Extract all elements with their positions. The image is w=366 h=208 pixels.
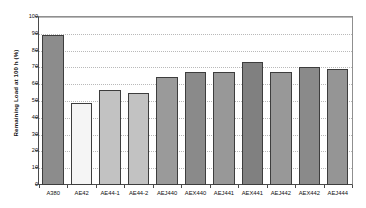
y-axis-tick-label: 100 <box>8 13 38 19</box>
x-axis-tick-mark <box>124 185 125 188</box>
bar <box>299 67 320 185</box>
y-axis-tick-label: 70 <box>8 63 38 69</box>
x-axis-tick-mark <box>210 185 211 188</box>
x-axis-tick-mark <box>96 185 97 188</box>
bar <box>213 72 234 185</box>
x-axis-tick-label: AEJ442 <box>267 189 295 197</box>
bar <box>185 72 206 185</box>
x-axis-tick-label: AEJ444 <box>324 189 352 197</box>
y-axis-tick-label: 90 <box>8 30 38 36</box>
x-axis-tick-mark <box>153 185 154 188</box>
bar <box>42 35 63 185</box>
x-axis-tick-mark <box>39 185 40 188</box>
x-axis-tick-label: AE44-1 <box>96 189 124 197</box>
y-axis-tick-label: 30 <box>8 131 38 137</box>
x-axis-tick-label: AEJ440 <box>153 189 181 197</box>
x-axis-tick-label: AE42 <box>67 189 95 197</box>
bar <box>71 103 92 185</box>
y-axis-tick-label: 20 <box>8 147 38 153</box>
y-axis-tick-label: 40 <box>8 114 38 120</box>
x-axis-tick-label: AEX442 <box>295 189 323 197</box>
x-axis-tick-label: A380 <box>39 189 67 197</box>
y-axis-tick-label: 50 <box>8 97 38 103</box>
y-axis-tick-label: 60 <box>8 80 38 86</box>
bar <box>99 90 120 185</box>
x-axis-tick-mark <box>267 185 268 188</box>
x-axis-tick-mark <box>181 185 182 188</box>
x-axis-tick-label: AEX440 <box>181 189 209 197</box>
y-axis-tick-labels: 0102030405060708090100 <box>0 16 38 185</box>
bar <box>242 62 263 185</box>
y-axis-tick-label: 80 <box>8 47 38 53</box>
x-axis-tick-mark <box>352 185 353 188</box>
x-axis-tick-mark <box>295 185 296 188</box>
bar <box>156 77 177 185</box>
x-axis-tick-mark <box>67 185 68 188</box>
y-axis-tick-label: 0 <box>8 181 38 187</box>
x-axis-tick-label: AEJ441 <box>210 189 238 197</box>
bars-layer <box>39 17 352 185</box>
x-axis-tick-label: AEX441 <box>238 189 266 197</box>
bar <box>270 72 291 185</box>
x-axis-tick-mark <box>324 185 325 188</box>
bar <box>327 69 348 185</box>
x-axis-tick-label: AE44-2 <box>124 189 152 197</box>
y-axis-tick-label: 10 <box>8 164 38 170</box>
x-axis-tick-mark <box>238 185 239 188</box>
bar-chart: Remaining Load at 100 h (%) 010203040506… <box>0 0 366 208</box>
bar <box>128 93 149 185</box>
x-axis-tick-labels: A380AE42AE44-1AE44-2AEJ440AEX440AEJ441AE… <box>39 189 352 201</box>
